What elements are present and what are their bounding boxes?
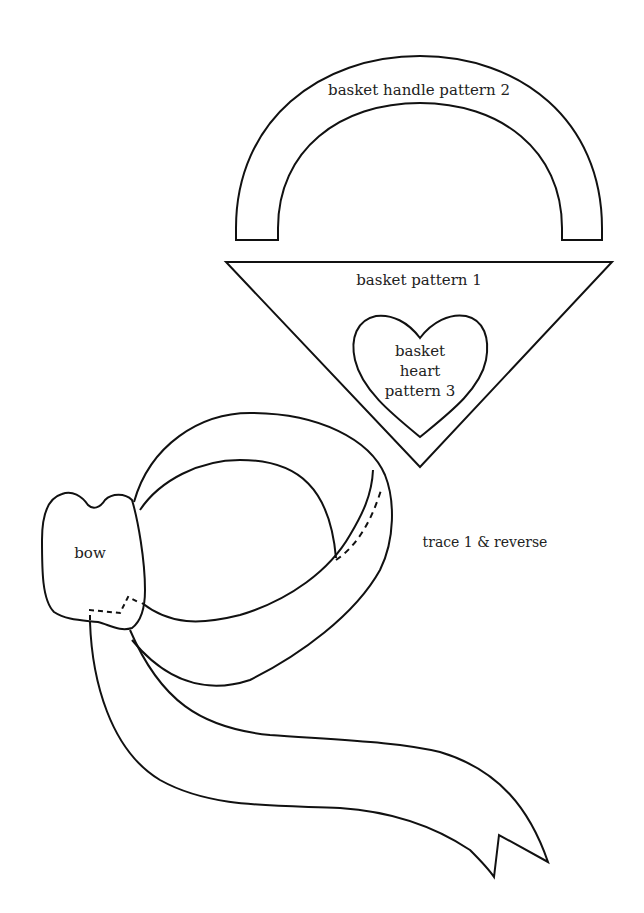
heart-label-line-3: pattern 3: [385, 382, 456, 400]
handle-label: basket handle pattern 2: [328, 81, 510, 99]
bow-label: bow: [74, 544, 106, 562]
heart-label-line-1: basket: [395, 342, 445, 360]
heart-label-line-2: heart: [400, 362, 441, 380]
basket-handle-piece: basket handle pattern 2: [236, 56, 602, 240]
ribbon-tail-piece: [90, 622, 548, 877]
bow-loop-piece: [132, 413, 392, 686]
basket-label: basket pattern 1: [356, 271, 482, 289]
trace-note: trace 1 & reverse: [423, 534, 548, 550]
bow-knot-piece: bow: [42, 493, 145, 629]
pattern-sheet: basket handle pattern 2 basket pattern 1…: [0, 0, 644, 913]
